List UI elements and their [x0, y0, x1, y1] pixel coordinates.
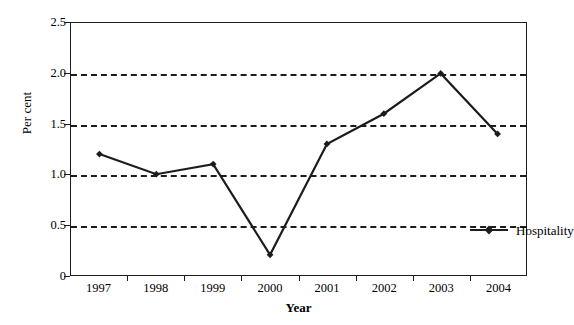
series-markers-hospitality: [96, 70, 501, 258]
x-tick-label-2003: 2003: [429, 282, 454, 295]
x-tick-mark-1: [127, 276, 128, 281]
x-tick-mark-2: [184, 276, 185, 281]
x-axis-title: Year: [70, 300, 527, 316]
x-tick-mark-5: [356, 276, 357, 281]
y-tick-mark-1-0: [64, 174, 70, 175]
data-point-1998: [153, 171, 160, 178]
legend-label-hospitality: Hospitality: [516, 224, 574, 237]
x-tick-mark-4: [299, 276, 300, 281]
series-line-hospitality: [99, 73, 497, 254]
x-tick-label-1998: 1998: [143, 282, 168, 295]
x-tick-mark-6: [413, 276, 414, 281]
legend: Hospitality: [469, 223, 574, 237]
x-tick-label-2000: 2000: [257, 282, 282, 295]
x-tick-label-2002: 2002: [372, 282, 397, 295]
x-tick-label-2001: 2001: [315, 282, 340, 295]
plot-area: Hospitality: [70, 22, 527, 276]
x-tick-mark-7: [470, 276, 471, 281]
legend-marker-icon: [469, 223, 509, 237]
y-axis-tick-labels: 00.51.01.52.02.5: [30, 22, 66, 276]
x-axis-tick-labels: 19971998199920002001200220032004: [70, 282, 527, 300]
series-layer: [71, 23, 526, 275]
y-tick-mark-1-5: [64, 124, 70, 125]
data-point-1997: [96, 151, 103, 158]
x-tick-mark-3: [241, 276, 242, 281]
y-tick-mark-0-5: [64, 225, 70, 226]
y-tick-mark-2-0: [64, 73, 70, 74]
x-tick-label-2004: 2004: [486, 282, 511, 295]
y-tick-mark-2-5: [64, 22, 70, 23]
y-tick-mark-0: [64, 276, 70, 277]
x-tick-label-1999: 1999: [200, 282, 225, 295]
x-tick-label-1997: 1997: [86, 282, 111, 295]
